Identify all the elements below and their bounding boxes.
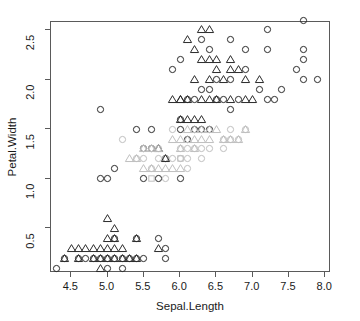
data-point-triangle <box>125 254 134 263</box>
data-point-circle <box>205 45 214 54</box>
data-point-circle <box>205 144 214 153</box>
data-point-triangle <box>161 154 170 163</box>
x-axis-title: Sepal.Length <box>156 300 224 312</box>
data-point-triangle <box>125 154 134 163</box>
data-point-triangle <box>219 75 228 84</box>
data-point-triangle <box>168 95 177 104</box>
data-point-circle <box>168 125 177 134</box>
data-point-circle <box>139 144 148 153</box>
data-point-circle <box>139 174 148 183</box>
data-point-circle <box>132 234 141 243</box>
data-point-square <box>147 174 156 183</box>
data-point-circle <box>74 254 83 263</box>
data-point-triangle <box>103 234 112 243</box>
data-point-triangle <box>234 65 243 74</box>
data-point-circle <box>132 154 141 163</box>
data-point-triangle <box>226 95 235 104</box>
x-tick-mark <box>324 272 325 277</box>
data-point-circle <box>52 264 61 273</box>
data-point-circle <box>96 174 105 183</box>
x-tick-label: 7.0 <box>244 280 259 292</box>
data-point-circle <box>197 85 206 94</box>
data-point-triangle <box>89 254 98 263</box>
data-point-circle <box>299 75 308 84</box>
data-point-circle <box>197 144 206 153</box>
data-point-circle <box>139 254 148 263</box>
data-point-circle <box>103 254 112 263</box>
data-point-triangle <box>96 244 105 253</box>
y-tick-label: 2.5 <box>24 35 36 50</box>
data-point-circle <box>132 254 141 263</box>
data-point-triangle <box>205 95 214 104</box>
data-point-triangle <box>212 55 221 64</box>
data-point-circle <box>168 154 177 163</box>
data-point-circle <box>147 144 156 153</box>
data-point-triangle <box>154 144 163 153</box>
data-point-triangle <box>197 125 206 134</box>
data-point-circle <box>299 45 308 54</box>
x-tick-label: 6.0 <box>171 280 186 292</box>
data-point-circle <box>110 164 119 173</box>
data-point-triangle <box>132 154 141 163</box>
data-point-triangle <box>190 115 199 124</box>
data-point-circle <box>263 45 272 54</box>
x-tick-mark <box>179 272 180 277</box>
data-point-circle <box>161 154 170 163</box>
data-point-circle <box>197 154 206 163</box>
data-point-triangle <box>154 164 163 173</box>
data-point-triangle <box>110 234 119 243</box>
data-point-triangle <box>241 95 250 104</box>
data-point-circle <box>190 144 199 153</box>
data-point-triangle <box>147 164 156 173</box>
data-point-triangle <box>103 214 112 223</box>
data-point-triangle <box>118 244 127 253</box>
data-point-circle <box>190 95 199 104</box>
data-point-circle <box>226 105 235 114</box>
data-point-triangle <box>89 244 98 253</box>
data-point-circle <box>118 254 127 263</box>
data-point-circle <box>125 254 134 263</box>
data-point-circle <box>183 135 192 144</box>
data-point-triangle <box>176 115 185 124</box>
data-point-circle <box>183 144 192 153</box>
data-point-circle <box>226 125 235 134</box>
data-point-triangle <box>110 254 119 263</box>
x-tick-mark <box>70 272 71 277</box>
data-point-circle <box>154 154 163 163</box>
data-point-circle <box>147 125 156 134</box>
data-point-triangle <box>110 224 119 233</box>
data-point-triangle <box>103 244 112 253</box>
data-point-triangle <box>132 234 141 243</box>
data-point-triangle <box>226 65 235 74</box>
data-point-circle <box>299 16 308 25</box>
data-point-circle <box>241 125 250 134</box>
data-point-circle <box>96 105 105 114</box>
data-point-triangle <box>168 135 177 144</box>
data-point-triangle <box>96 264 105 273</box>
data-point-triangle <box>190 144 199 153</box>
x-tick-label: 6.5 <box>208 280 223 292</box>
data-point-triangle <box>248 95 257 104</box>
data-point-triangle <box>96 254 105 263</box>
data-point-triangle <box>183 115 192 124</box>
data-point-circle <box>81 254 90 263</box>
data-point-circle <box>183 164 192 173</box>
data-point-triangle <box>110 244 119 253</box>
data-point-circle <box>263 25 272 34</box>
data-point-triangle <box>183 135 192 144</box>
data-point-triangle <box>234 135 243 144</box>
data-point-circle <box>226 35 235 44</box>
data-point-circle <box>176 55 185 64</box>
data-point-triangle <box>147 144 156 153</box>
data-point-circle <box>197 35 206 44</box>
data-point-triangle <box>226 55 235 64</box>
data-point-circle <box>212 95 221 104</box>
data-point-circle <box>89 254 98 263</box>
data-point-circle <box>147 164 156 173</box>
data-point-circle <box>110 254 119 263</box>
data-point-triangle <box>255 75 264 84</box>
data-point-circle <box>118 264 127 273</box>
data-point-circle <box>270 95 279 104</box>
x-tick-mark <box>252 272 253 277</box>
data-point-triangle <box>197 135 206 144</box>
